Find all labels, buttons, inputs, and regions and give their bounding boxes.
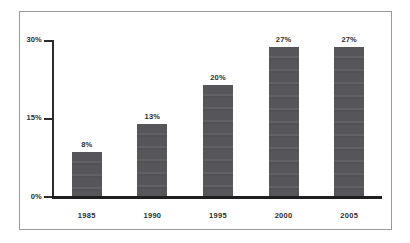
bar-value-label-2005: 27% bbox=[316, 35, 382, 44]
bar-value-label-1990: 13% bbox=[120, 112, 186, 121]
x-axis-category-labels: 1985 1990 1995 2000 2005 bbox=[54, 204, 382, 218]
bar-group-2005: 27% bbox=[316, 30, 382, 196]
x-axis-category-1995: 1995 bbox=[209, 211, 227, 220]
x-axis-category-slot-2: 1990 bbox=[120, 204, 186, 222]
bar-group-2000: 27% bbox=[251, 30, 317, 196]
bar-group-1985: 8% bbox=[54, 30, 120, 196]
y-axis-tick-30 bbox=[44, 40, 53, 42]
bar-2000[interactable] bbox=[269, 47, 299, 196]
bar-chart: 30% 15% 0% 8% 13% 20% 27% 27% bbox=[0, 0, 410, 243]
bar-1985[interactable] bbox=[72, 152, 102, 196]
y-axis-label-15: 15% bbox=[8, 113, 42, 122]
x-axis-category-2005: 2005 bbox=[340, 211, 358, 220]
bar-group-1990: 13% bbox=[120, 30, 186, 196]
y-axis-label-0-slot: 0% bbox=[8, 192, 42, 203]
y-axis-label-15-slot: 15% bbox=[8, 113, 42, 124]
y-axis-label-30-slot: 30% bbox=[8, 35, 42, 46]
x-axis-category-2000: 2000 bbox=[275, 211, 293, 220]
bar-1990[interactable] bbox=[137, 124, 167, 196]
bar-1995[interactable] bbox=[203, 85, 233, 196]
x-axis-category-slot-5: 2005 bbox=[316, 204, 382, 222]
plot-area: 8% 13% 20% 27% 27% bbox=[54, 30, 382, 196]
x-axis-category-1985: 1985 bbox=[78, 211, 96, 220]
y-axis-label-0: 0% bbox=[8, 192, 42, 201]
x-axis-category-1990: 1990 bbox=[143, 211, 161, 220]
x-axis-category-slot-4: 2000 bbox=[251, 204, 317, 222]
bar-value-label-1985: 8% bbox=[54, 140, 120, 149]
x-axis-category-slot-3: 1995 bbox=[185, 204, 251, 222]
bar-value-label-2000: 27% bbox=[251, 35, 317, 44]
y-axis-label-30: 30% bbox=[8, 35, 42, 44]
y-axis-tick-15 bbox=[44, 118, 53, 120]
x-axis-line bbox=[52, 196, 382, 199]
bar-value-label-1995: 20% bbox=[185, 73, 251, 82]
bar-group-1995: 20% bbox=[185, 30, 251, 196]
x-axis-category-slot-1: 1985 bbox=[54, 204, 120, 222]
bar-2005[interactable] bbox=[334, 47, 364, 196]
